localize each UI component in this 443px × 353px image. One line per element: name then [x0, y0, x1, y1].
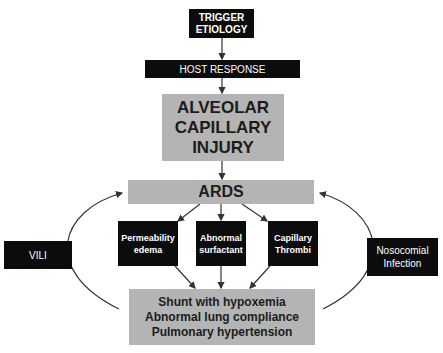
alveolar-line2: CAPILLARY: [175, 118, 272, 138]
permeability-edema-box: Permeability edema: [118, 221, 178, 266]
trigger-line1: TRIGGER: [199, 12, 245, 24]
nosocomial-line2: Infection: [384, 257, 422, 270]
surfactant-line1: Abnormal: [200, 232, 242, 244]
permeability-line1: Permeability: [121, 232, 175, 244]
vili-box: VILI: [4, 241, 72, 269]
ards-label: ARDS: [198, 183, 243, 201]
trigger-etiology-box: TRIGGER ETIOLOGY: [189, 9, 254, 38]
nosocomial-infection-box: Nosocomial Infection: [367, 238, 438, 276]
outcome-compliance: Abnormal lung compliance: [145, 310, 299, 325]
ards-box: ARDS: [128, 180, 314, 204]
outcome-pulmonary-hypertension: Pulmonary hypertension: [152, 325, 293, 340]
thrombi-line2: Thrombi: [275, 244, 311, 256]
alveolar-capillary-injury-box: ALVEOLAR CAPILLARY INJURY: [162, 94, 284, 161]
alveolar-line1: ALVEOLAR: [177, 98, 269, 118]
trigger-line2: ETIOLOGY: [196, 24, 248, 36]
outcome-shunt: Shunt with hypoxemia: [158, 295, 285, 310]
thrombi-line1: Capillary: [274, 232, 312, 244]
alveolar-line3: INJURY: [192, 138, 254, 158]
host-response-box: HOST RESPONSE: [145, 60, 300, 78]
abnormal-surfactant-box: Abnormal surfactant: [196, 221, 246, 266]
permeability-line2: edema: [134, 244, 163, 256]
surfactant-line2: surfactant: [199, 244, 243, 256]
capillary-thrombi-box: Capillary Thrombi: [268, 221, 318, 266]
vili-label: VILI: [29, 250, 47, 261]
host-response-label: HOST RESPONSE: [180, 64, 266, 75]
nosocomial-line1: Nosocomial: [376, 244, 428, 257]
outcomes-box: Shunt with hypoxemia Abnormal lung compl…: [129, 289, 315, 345]
